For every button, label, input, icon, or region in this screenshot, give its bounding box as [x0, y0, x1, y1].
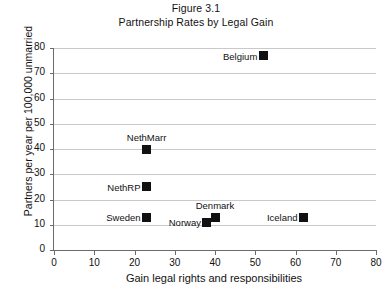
y-gridline: [54, 124, 376, 125]
y-gridline: [54, 48, 376, 49]
x-tick-mark: [54, 250, 55, 255]
data-point-label: Norway: [169, 217, 201, 228]
y-gridline: [54, 73, 376, 74]
x-tick-mark: [255, 250, 256, 255]
figure-number: Figure 3.1: [0, 2, 392, 16]
data-point-label: Belgium: [223, 50, 257, 61]
x-tick-label: 0: [39, 257, 69, 268]
y-tick-mark: [50, 99, 54, 100]
x-axis-title: Gain legal rights and responsibilities: [53, 272, 375, 284]
x-tick-mark: [94, 250, 95, 255]
data-point-marker: [299, 213, 308, 222]
data-point-label: Sweden: [106, 212, 140, 223]
y-tick-mark: [50, 174, 54, 175]
data-point-marker: [211, 213, 220, 222]
data-point-marker: [142, 213, 151, 222]
x-tick-label: 50: [240, 257, 270, 268]
x-tick-mark: [296, 250, 297, 255]
data-point-label: NethMarr: [127, 132, 167, 143]
x-tick-label: 80: [361, 257, 391, 268]
data-point-label: NethRP: [107, 181, 140, 192]
x-tick-label: 40: [200, 257, 230, 268]
x-tick-mark: [175, 250, 176, 255]
x-tick-label: 20: [120, 257, 150, 268]
data-point-marker: [142, 182, 151, 191]
x-tick-mark: [215, 250, 216, 255]
y-gridline: [54, 225, 376, 226]
plot-area: 0102030405060708001020304050607080Belgiu…: [53, 48, 375, 250]
y-tick-mark: [50, 149, 54, 150]
y-gridline: [54, 149, 376, 150]
x-tick-label: 60: [281, 257, 311, 268]
x-tick-label: 30: [160, 257, 190, 268]
figure-container: Figure 3.1 Partnership Rates by Legal Ga…: [0, 0, 392, 299]
y-tick-mark: [50, 225, 54, 226]
x-tick-label: 70: [321, 257, 351, 268]
x-tick-mark: [135, 250, 136, 255]
data-point-marker: [142, 145, 151, 154]
y-tick-mark: [50, 48, 54, 49]
data-point-label: Iceland: [267, 212, 298, 223]
x-tick-mark: [376, 250, 377, 255]
y-tick-mark: [50, 73, 54, 74]
y-tick-mark: [50, 200, 54, 201]
figure-title-block: Figure 3.1 Partnership Rates by Legal Ga…: [0, 2, 392, 29]
x-tick-mark: [336, 250, 337, 255]
figure-subtitle: Partnership Rates by Legal Gain: [0, 16, 392, 30]
data-point-marker: [259, 51, 268, 60]
y-tick-mark: [50, 124, 54, 125]
data-point-label: Denmark: [196, 200, 235, 211]
x-tick-label: 10: [79, 257, 109, 268]
y-gridline: [54, 174, 376, 175]
y-axis-title: Partners per year per 100,000 unmarried: [22, 0, 34, 246]
y-gridline: [54, 99, 376, 100]
